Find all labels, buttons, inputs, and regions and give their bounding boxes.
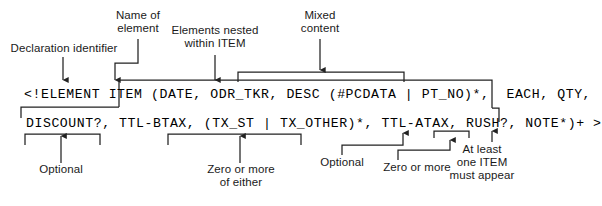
pointer-optional-right	[342, 133, 403, 155]
bracket-zero-or-more-either	[168, 134, 301, 145]
code-line-2: DISCOUNT?, TTL-BTAX, (TX_ST | TX_OTHER)*…	[26, 116, 602, 131]
label-optional-left: Optional	[23, 163, 99, 176]
label-declaration-identifier: Declaration identifier	[0, 42, 128, 55]
bracket-mixed-content	[238, 72, 404, 82]
bracket-note-zero-or-more	[434, 131, 469, 138]
bracket-optional-left	[25, 134, 100, 145]
label-optional-right: Optional	[311, 156, 373, 169]
label-mixed-content: Mixed content	[283, 9, 357, 35]
label-at-least-one-item-must-appear: At least one ITEM must appear	[443, 143, 521, 182]
label-zero-or-more-of-either: Zero or more of either	[190, 163, 292, 189]
label-elements-nested-within-item: Elements nested within ITEM	[155, 24, 275, 50]
code-line-1: <!ELEMENT ITEM (DATE, ODR_TKR, DESC (#PC…	[24, 87, 591, 102]
